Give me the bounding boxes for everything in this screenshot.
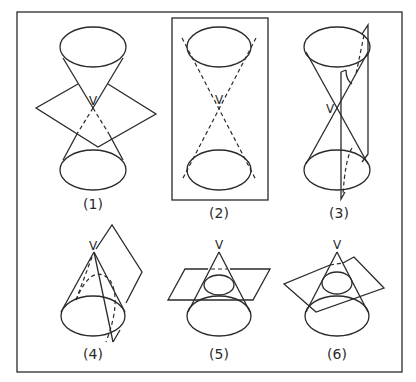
panel-3: V (3) <box>304 25 370 221</box>
panel-label: (4) <box>83 346 103 362</box>
panel-4: V (4) <box>61 225 142 362</box>
bottom-ellipse <box>304 150 370 190</box>
base-ellipse <box>187 296 251 336</box>
bottom-ellipse <box>60 150 126 190</box>
panel-5: V (5) <box>168 238 270 362</box>
panel-2: V (2) <box>172 18 268 221</box>
vertex-label: V <box>215 238 224 252</box>
plane <box>284 257 384 312</box>
panel-label: (5) <box>209 346 229 362</box>
vertex-label: V <box>326 102 335 116</box>
base-ellipse <box>305 296 369 336</box>
section-ellipse <box>322 272 352 294</box>
vertex-label: V <box>333 238 342 252</box>
top-ellipse <box>187 27 251 67</box>
section-circle <box>204 275 234 295</box>
plane-front-edge <box>341 72 345 199</box>
vertex-label: V <box>89 239 98 253</box>
bottom-ellipse <box>187 150 251 190</box>
conic-sections-diagram: V (1) V (2) V (3) V <box>0 0 416 382</box>
panel-1: V (1) <box>36 27 156 212</box>
vertex-label: V <box>215 93 224 107</box>
panel-6: V (6) <box>284 238 384 362</box>
vertex-label: V <box>89 94 98 108</box>
top-ellipse <box>304 27 370 67</box>
panel-label: (2) <box>209 205 229 221</box>
panel-label: (1) <box>83 196 103 212</box>
panel-label: (3) <box>329 205 349 221</box>
top-ellipse <box>60 27 126 67</box>
panel-label: (6) <box>327 346 347 362</box>
